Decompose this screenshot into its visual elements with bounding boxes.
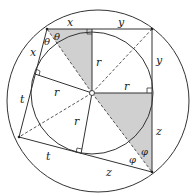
label-t-left: t — [20, 93, 25, 106]
label-phi-2: φ — [141, 146, 148, 157]
label-z-bottom: z — [105, 166, 112, 179]
label-phi-1: φ — [129, 154, 136, 165]
vertex-D-dot — [18, 136, 21, 139]
label-r-left: r — [54, 86, 60, 99]
right-angle-marker-right — [147, 88, 152, 93]
geometry-diagram: x y x θ θ y r r r r t t z z φ φ — [0, 0, 196, 196]
vertex-B-dot — [151, 28, 154, 31]
circumcircle — [7, 10, 189, 192]
label-z-right: z — [155, 125, 162, 138]
label-theta-2: θ — [54, 31, 60, 42]
center-point — [90, 91, 95, 96]
radius-bottom — [81, 93, 92, 154]
label-r-right: r — [124, 80, 130, 93]
vertex-C-dot — [151, 171, 154, 174]
label-r-top: r — [96, 56, 102, 69]
label-t-bottom: t — [46, 150, 51, 163]
label-x-top: x — [67, 16, 74, 29]
label-theta-1: θ — [44, 36, 50, 47]
label-y-top: y — [117, 16, 125, 29]
dashed-line-to-D — [19, 93, 92, 137]
label-y-right: y — [155, 54, 163, 67]
vertex-A-dot — [46, 28, 49, 31]
label-x-left: x — [30, 46, 37, 59]
label-r-bottom: r — [74, 115, 80, 128]
